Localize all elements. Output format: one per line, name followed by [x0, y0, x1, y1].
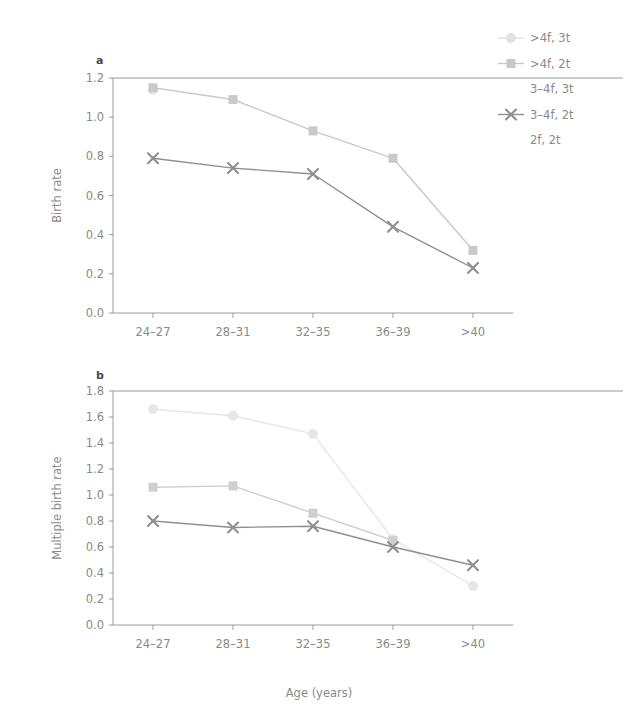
data-point-a-3-4 — [468, 263, 478, 273]
y-tick-label-a-1: 0.2 — [86, 267, 104, 281]
y-tick-label-a-4: 0.8 — [86, 149, 104, 163]
legend-marker-square-1 — [507, 59, 516, 68]
chart-svg: a0.00.20.40.60.81.01.224–2728–3132–3536–… — [0, 0, 638, 719]
series-line-b-1 — [153, 486, 393, 541]
x-tick-label-b-0: 24–27 — [135, 637, 170, 651]
legend-marker-circle-0 — [506, 33, 516, 43]
data-point-b-1-0 — [149, 483, 158, 492]
data-point-b-3-4 — [468, 560, 478, 570]
legend: >4f, 3t>4f, 2t3–4f, 3t3–4f, 2t2f, 2t — [498, 31, 574, 147]
x-tick-label-a-1: 28–31 — [215, 325, 250, 339]
data-point-a-1-2 — [309, 126, 318, 135]
data-point-b-1-1 — [229, 481, 238, 490]
y-tick-label-a-5: 1.0 — [86, 110, 104, 124]
x-tick-label-a-2: 32–35 — [295, 325, 330, 339]
x-tick-label-a-0: 24–27 — [135, 325, 170, 339]
y-tick-label-a-0: 0.0 — [86, 306, 104, 320]
legend-label-1: >4f, 2t — [530, 57, 571, 71]
data-point-b-0-1 — [228, 411, 238, 421]
y-tick-label-b-6: 1.2 — [86, 462, 104, 476]
x-tick-label-a-4: >40 — [461, 325, 485, 339]
y-tick-label-b-1: 0.2 — [86, 592, 104, 606]
y-axis-title-a: Birth rate — [50, 168, 64, 223]
y-tick-label-b-4: 0.8 — [86, 514, 104, 528]
panel-letter-b: b — [96, 369, 104, 382]
x-tick-label-b-4: >40 — [461, 637, 485, 651]
data-point-a-1-1 — [229, 95, 238, 104]
panel-letter-a: a — [96, 54, 103, 67]
data-point-a-1-3 — [389, 154, 398, 163]
y-tick-label-a-2: 0.4 — [86, 228, 104, 242]
data-point-b-0-2 — [308, 429, 318, 439]
y-tick-label-a-3: 0.6 — [86, 189, 104, 203]
data-point-a-3-3 — [388, 222, 398, 232]
data-point-b-0-4 — [468, 581, 478, 591]
x-tick-label-b-2: 32–35 — [295, 637, 330, 651]
x-tick-label-b-3: 36–39 — [375, 637, 410, 651]
legend-label-3: 3–4f, 2t — [530, 108, 574, 122]
data-point-a-1-4 — [469, 246, 478, 255]
x-tick-label-a-3: 36–39 — [375, 325, 410, 339]
figure-container: a0.00.20.40.60.81.01.224–2728–3132–3536–… — [0, 0, 638, 719]
data-point-a-1-0 — [149, 83, 158, 92]
y-tick-label-a-6: 1.2 — [86, 71, 104, 85]
y-tick-label-b-0: 0.0 — [86, 618, 104, 632]
legend-label-2: 3–4f, 3t — [530, 82, 574, 96]
y-tick-label-b-8: 1.6 — [86, 410, 104, 424]
legend-label-4: 2f, 2t — [530, 133, 561, 147]
panel-b: b0.00.20.40.60.81.01.21.41.61.824–2728–3… — [50, 369, 623, 651]
x-axis-title: Age (years) — [286, 686, 353, 700]
x-tick-label-b-1: 28–31 — [215, 637, 250, 651]
panel-a: a0.00.20.40.60.81.01.224–2728–3132–3536–… — [50, 54, 623, 339]
data-point-b-0-0 — [148, 404, 158, 414]
legend-label-0: >4f, 3t — [530, 31, 571, 45]
series-line-a-1 — [153, 88, 473, 251]
y-tick-label-b-5: 1.0 — [86, 488, 104, 502]
y-tick-label-b-2: 0.4 — [86, 566, 104, 580]
y-tick-label-b-9: 1.8 — [86, 384, 104, 398]
y-tick-label-b-7: 1.4 — [86, 436, 104, 450]
y-axis-title-b: Multiple birth rate — [50, 456, 64, 559]
y-tick-label-b-3: 0.6 — [86, 540, 104, 554]
data-point-b-1-2 — [309, 509, 318, 518]
